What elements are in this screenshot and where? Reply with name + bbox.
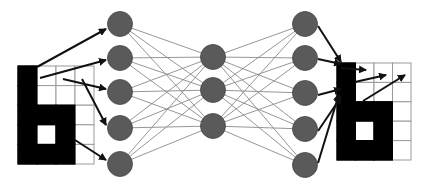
input-neuron [108,12,133,37]
output-image-pixel [393,63,412,82]
input-image-pixel-on [56,124,76,145]
output-image-pixel-on [355,140,375,160]
hidden-neuron [201,45,226,70]
input-image-pixel [75,144,94,164]
input-neuron [108,152,133,177]
input-image-pixel-on [37,144,57,165]
output-image-pixel [393,141,412,160]
output-image-pixel-on [337,63,357,83]
input-image-pixel [56,86,75,106]
network-edge [120,57,213,58]
input-neuron [108,46,133,71]
network-edge [120,90,213,128]
input-neuron [108,116,133,141]
network-edge [120,58,213,90]
input-image-pixel-on [18,105,38,126]
input-image-pixel-on [18,144,38,165]
output-neuron [293,81,318,106]
output-image-pixel-on [337,101,357,121]
input-image-pixel-on [18,124,38,145]
network-edge [213,93,305,126]
output-image-pixel [393,82,412,101]
mapping-arrow [318,94,339,163]
output-image-pixel-on [374,101,394,121]
input-image-pixel [75,105,94,125]
output-neuron [293,153,318,178]
input-image-pixel [37,125,56,145]
input-image-pixel-on [56,105,76,126]
output-image-pixel-on [337,140,357,160]
mapping-arrow [37,29,106,67]
network-edge [120,90,213,164]
input-image-pixel-on [56,144,76,165]
mapping-arrow [318,26,341,62]
network-edge [213,126,305,129]
autoencoder-diagram [0,0,433,189]
output-neuron [293,12,318,37]
output-image-pixel [356,121,375,140]
mapping-arrow [318,59,341,64]
output-image-pixel-on [337,121,357,141]
network-edge [120,24,213,57]
network-edge [120,126,213,164]
output-image-pixel [374,63,393,82]
input-neuron [108,80,133,105]
input-image-pixel [37,86,56,106]
network-edge [213,126,305,165]
output-neuron [293,46,318,71]
output-image-pixel [393,121,412,140]
hidden-neuron [201,114,226,139]
input-image-pixel-on [37,105,57,126]
output-image-pixel-on [374,140,394,160]
hidden-neuron [201,78,226,103]
network-nodes [108,12,318,178]
output-neuron [293,117,318,142]
network-edge [213,24,305,57]
input-image-pixel-on [18,85,38,106]
output-image-pixel [393,102,412,121]
input-image-pixel-on [18,66,38,87]
output-image-pixel-on [355,101,375,121]
network-edge [120,57,213,92]
output-image-pixel-on [374,121,394,141]
